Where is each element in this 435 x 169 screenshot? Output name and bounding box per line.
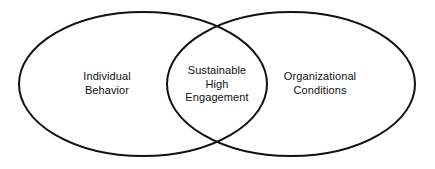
- venn-diagram: Individual Behavior Sustainable High Eng…: [0, 0, 435, 169]
- label-sustainable-high-engagement-line-1: Sustainable: [185, 64, 248, 78]
- label-sustainable-high-engagement: Sustainable High Engagement: [185, 64, 248, 105]
- label-individual-behavior: Individual Behavior: [83, 70, 130, 97]
- label-organizational-conditions-line-1: Organizational: [284, 70, 356, 84]
- label-individual-behavior-line-1: Individual: [83, 70, 130, 84]
- label-sustainable-high-engagement-line-3: Engagement: [185, 91, 248, 105]
- label-organizational-conditions-line-2: Conditions: [284, 84, 356, 98]
- label-sustainable-high-engagement-line-2: High: [185, 77, 248, 91]
- label-organizational-conditions: Organizational Conditions: [284, 70, 356, 97]
- label-individual-behavior-line-2: Behavior: [83, 84, 130, 98]
